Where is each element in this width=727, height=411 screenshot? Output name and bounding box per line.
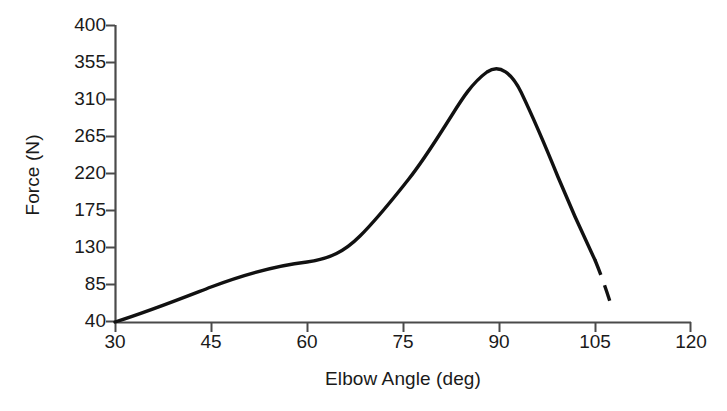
x-tick-label-45: 45 — [181, 332, 241, 351]
y-tick-label-355: 355 — [46, 52, 106, 71]
y-tick-label-400: 400 — [46, 15, 106, 34]
y-tick-marks — [106, 26, 115, 322]
x-tick-label-120: 120 — [661, 332, 721, 351]
y-tick-label-85: 85 — [46, 274, 106, 293]
y-tick-label-40: 40 — [46, 311, 106, 330]
y-axis-title-wrap: Force (N) — [2, 100, 42, 260]
x-tick-label-105: 105 — [565, 332, 625, 351]
chart-figure: 400 355 310 265 220 175 130 85 40 30 45 … — [0, 0, 727, 411]
x-tick-label-75: 75 — [373, 332, 433, 351]
y-axis-title: Force (N) — [22, 100, 44, 250]
force-curve-solid — [115, 69, 595, 322]
y-tick-label-130: 130 — [46, 237, 106, 256]
y-tick-label-310: 310 — [46, 89, 106, 108]
force-curve-dashed — [595, 260, 613, 311]
y-tick-label-220: 220 — [46, 163, 106, 182]
x-tick-label-90: 90 — [469, 332, 529, 351]
y-tick-label-265: 265 — [46, 126, 106, 145]
x-axis-title: Elbow Angle (deg) — [115, 368, 691, 390]
x-tick-label-60: 60 — [277, 332, 337, 351]
y-tick-label-175: 175 — [46, 200, 106, 219]
x-tick-label-30: 30 — [85, 332, 145, 351]
